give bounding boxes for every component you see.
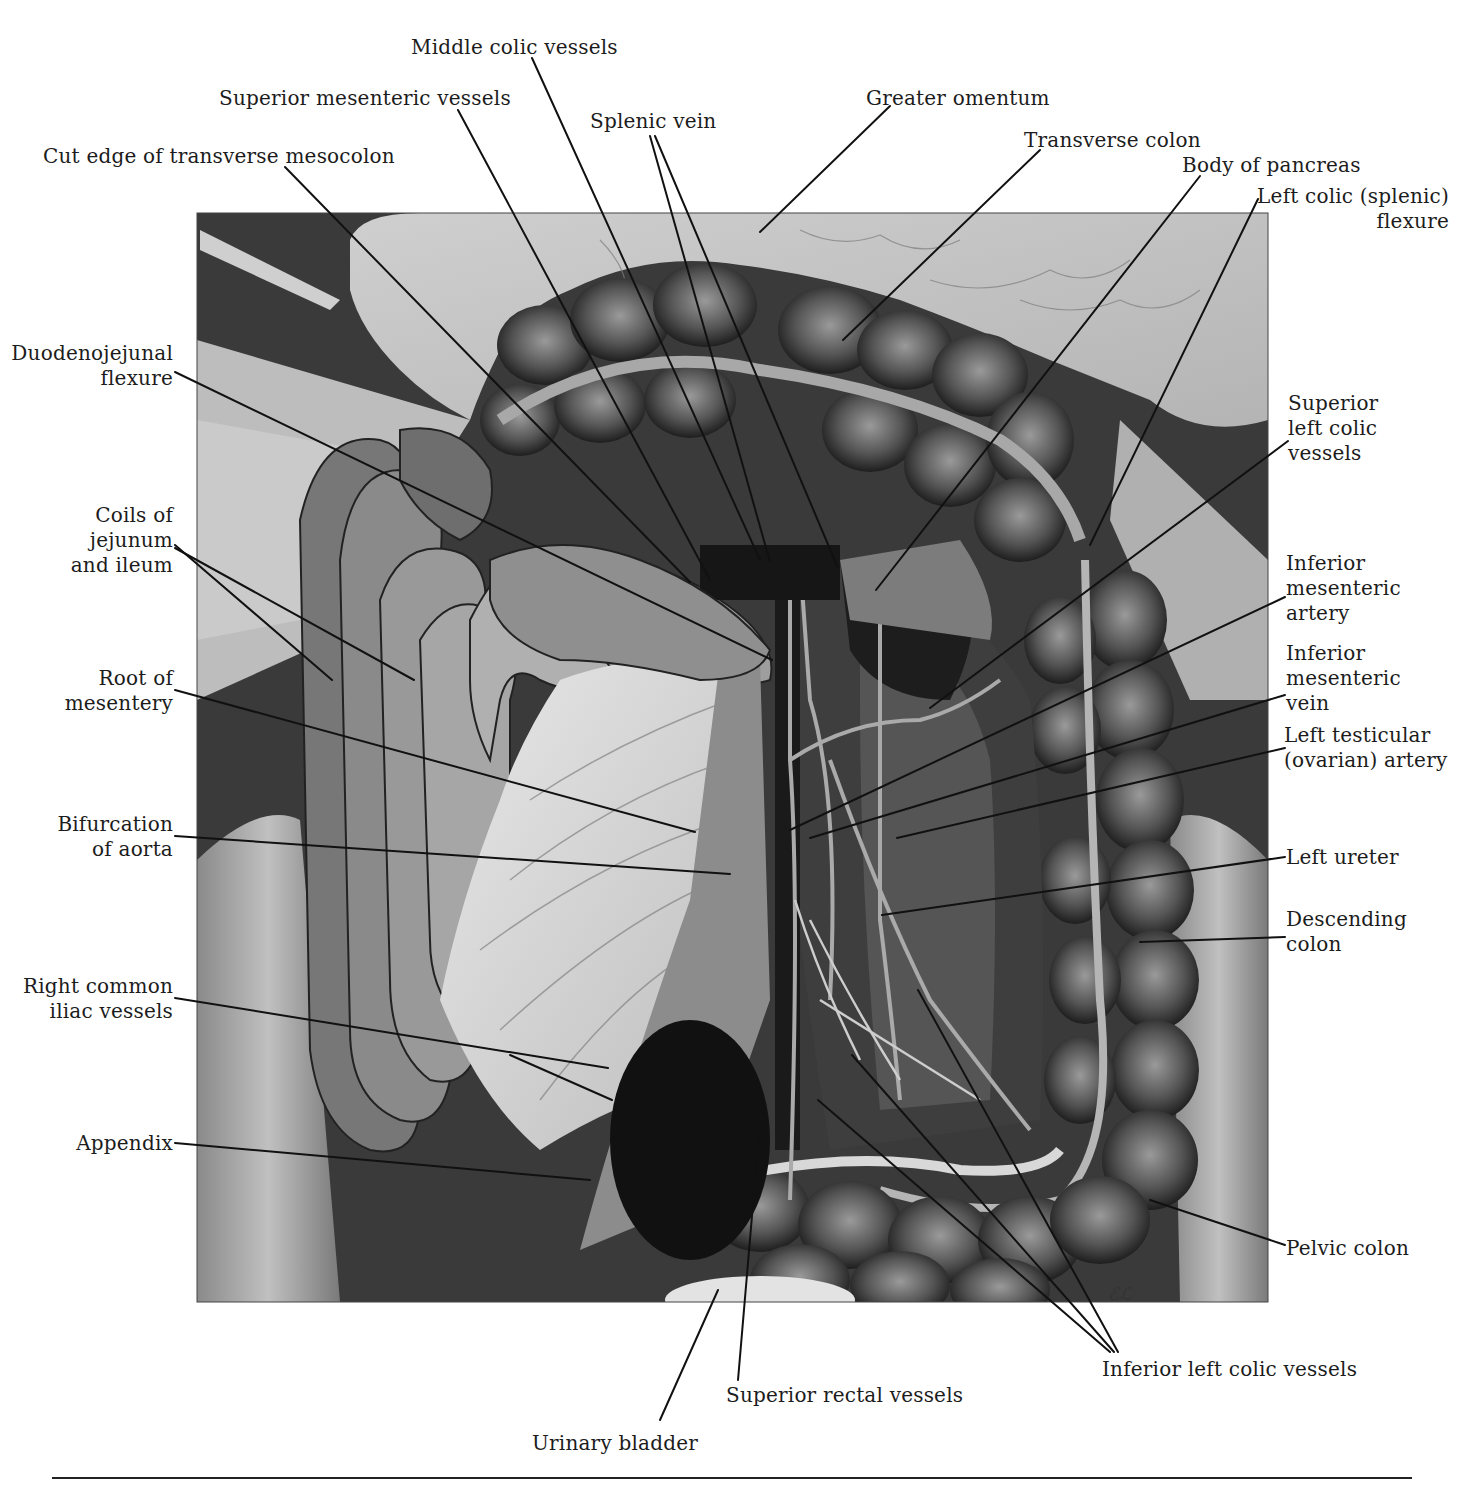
- label-left-testicular-artery: Left testicular (ovarian) artery: [1284, 723, 1447, 773]
- label-middle-colic-vessels: Middle colic vessels: [411, 35, 618, 60]
- illustration-body: [197, 213, 1268, 1324]
- bottom-rule-divider: [52, 1477, 1412, 1479]
- label-greater-omentum: Greater omentum: [866, 86, 1050, 111]
- illustration: ℰℒ: [0, 0, 1477, 1493]
- label-coils-jejunum-ileum: Coils of jejunum and ileum: [71, 503, 173, 578]
- anatomy-figure: ℰℒ: [0, 0, 1477, 1493]
- label-cut-edge-transverse-mesocolon: Cut edge of transverse mesocolon: [43, 144, 395, 169]
- label-superior-mesenteric-vessels: Superior mesenteric vessels: [219, 86, 511, 111]
- label-splenic-vein: Splenic vein: [590, 109, 716, 134]
- label-appendix: Appendix: [76, 1131, 173, 1156]
- label-superior-rectal-vessels: Superior rectal vessels: [726, 1383, 963, 1408]
- label-inferior-left-colic-vessels: Inferior left colic vessels: [1102, 1357, 1357, 1382]
- label-urinary-bladder: Urinary bladder: [532, 1431, 698, 1456]
- label-right-common-iliac-vessels: Right common iliac vessels: [23, 974, 173, 1024]
- label-superior-left-colic-vessels: Superior left colic vessels: [1288, 391, 1378, 466]
- label-duodenojejunal-flexure: Duodenojejunal flexure: [11, 341, 173, 391]
- label-left-ureter: Left ureter: [1286, 845, 1399, 870]
- artist-signature: ℰℒ: [1108, 1283, 1133, 1304]
- label-bifurcation-of-aorta: Bifurcation of aorta: [57, 812, 173, 862]
- label-descending-colon: Descending colon: [1286, 907, 1407, 957]
- label-pelvic-colon: Pelvic colon: [1286, 1236, 1409, 1261]
- label-inferior-mesenteric-vein: Inferior mesenteric vein: [1286, 641, 1401, 716]
- label-body-of-pancreas: Body of pancreas: [1182, 153, 1361, 178]
- label-root-of-mesentery: Root of mesentery: [65, 666, 173, 716]
- label-left-colic-flexure: Left colic (splenic) flexure: [1257, 184, 1449, 234]
- label-transverse-colon: Transverse colon: [1024, 128, 1201, 153]
- label-inferior-mesenteric-artery: Inferior mesenteric artery: [1286, 551, 1401, 626]
